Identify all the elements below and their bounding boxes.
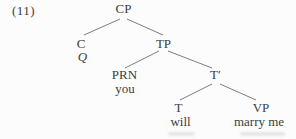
branch-line-TP-Tbar: [168, 51, 212, 68]
tree-node-PRN: PRN: [112, 68, 137, 81]
syntax-tree-figure: (11) CPCQTPPRNyouT′TwillVPmarry me: [0, 0, 296, 139]
branch-line-CP-TP: [127, 19, 163, 35]
tree-node-will: will: [170, 115, 190, 128]
branch-line-Tbar-T: [180, 84, 212, 100]
branch-line-TP-PRN: [125, 51, 159, 68]
tree-node-VP: VP: [253, 101, 270, 114]
branch-line-Tbar-VP: [220, 84, 256, 100]
branch-line-CP-C: [84, 19, 120, 35]
tree-node-Q: Q: [78, 50, 87, 63]
tree-node-Tbar: T′: [210, 68, 221, 81]
print-smudge-artifact: [168, 132, 195, 136]
tree-node-marry: marry me: [234, 115, 284, 128]
tree-node-CP: CP: [116, 2, 132, 15]
tree-node-TP: TP: [156, 37, 171, 50]
print-smudge-artifact: [240, 132, 285, 136]
tree-node-you: you: [115, 82, 135, 95]
tree-canvas: CPCQTPPRNyouT′TwillVPmarry me: [0, 0, 296, 139]
tree-node-T: T: [175, 101, 183, 114]
